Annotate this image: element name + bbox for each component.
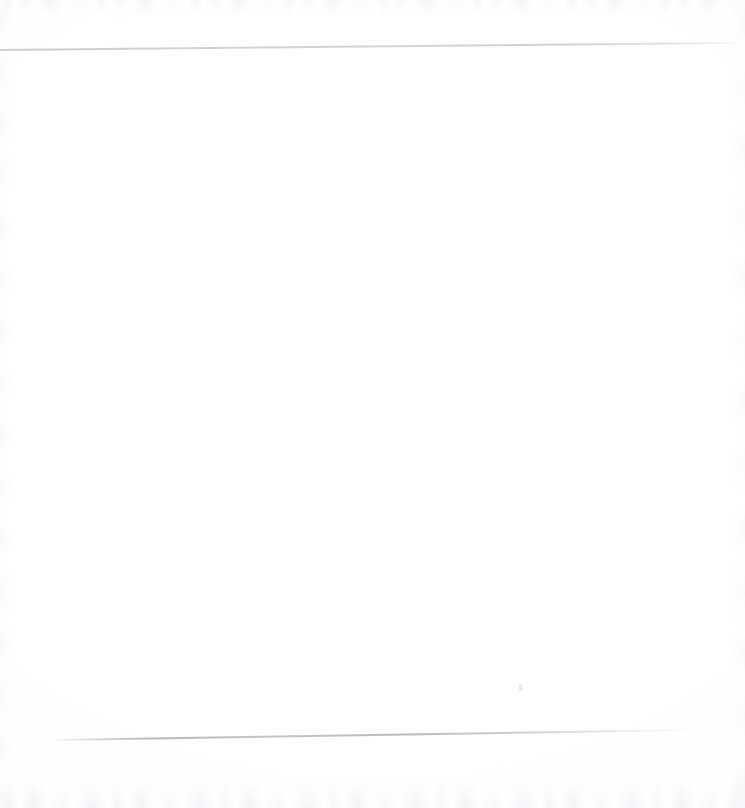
scan-noise-band-bottom [0, 778, 745, 808]
scan-noise-band-left [0, 0, 14, 808]
scan-noise-band-right [729, 0, 745, 808]
scan-dust-speck [519, 684, 523, 691]
scanned-page-canvas [0, 0, 745, 808]
paper-background [0, 0, 745, 808]
scan-noise-band-top [0, 0, 745, 17]
